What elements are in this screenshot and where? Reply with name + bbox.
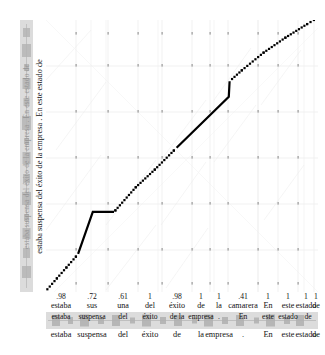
path-dot [313,20,315,21]
path-dot [173,149,175,151]
path-dot [271,46,273,48]
path-dot [123,199,125,201]
path-dot [68,264,70,266]
path-dot [287,35,289,37]
path-dot [166,157,168,159]
path-dot [158,164,160,166]
path-dot [231,78,233,80]
path-dot [306,23,308,25]
path-dot [292,31,294,33]
path-dot [273,44,275,46]
path-dot [254,58,256,60]
path-dot [284,37,286,39]
path-dot [128,194,130,196]
path-dot [301,26,303,28]
path-dot [265,50,267,52]
path-dot [154,169,156,171]
alignment-path-solid [78,81,230,254]
path-dot [257,56,259,58]
path-dot [70,261,72,263]
path-dot [151,171,153,173]
path-dot [163,159,165,161]
y-axis-label-text: estaba suspensa del éxito de la empresa … [35,59,44,253]
path-solid-segment-1 [177,81,230,148]
path-dot [233,76,235,78]
path-dot [246,65,248,67]
path-dot [252,60,254,62]
path-dot [72,258,74,260]
x-axis-bottom-word-row: estabasuspensadeléxitodelaempresa.Eneste… [46,330,318,342]
path-dot [260,54,262,56]
alignment-path [46,20,318,292]
path-dot [58,275,60,277]
bottom_words-11: de [282,330,325,340]
words-11: de [282,301,325,311]
path-dot [168,154,170,156]
path-dot [63,269,65,271]
alignment-path-dotted [46,20,315,290]
path-dot [114,209,116,211]
path-dot [65,266,67,268]
waveform_words-10: de [274,312,318,322]
path-dot [170,152,172,154]
path-dot [139,182,141,184]
path-dot [144,177,146,179]
path-dot [117,207,119,209]
path-dot [303,25,305,27]
path-dot [49,285,51,287]
path-dot [268,48,270,50]
path-dot [276,42,278,44]
path-dot [61,272,63,274]
path-dot [121,202,123,204]
path-dot [236,74,238,76]
x-axis-waveform-strip: estabasuspensadeléxitode laempresa.Enest… [46,312,318,329]
path-dot [135,186,137,188]
path-dot [279,40,281,42]
path-dot [161,161,163,163]
path-dot [309,21,311,23]
figure-root: estaba suspensa del éxito de la empresa … [0,0,325,355]
path-dot [238,71,240,73]
path-solid-segment-0 [78,212,114,254]
path-dot [46,288,48,290]
path-dot [126,196,128,198]
path-dot [290,33,292,35]
path-dot [56,277,58,279]
path-dot [243,67,245,69]
path-dot [295,30,297,32]
x-axis-word-row: estabasusunadeléxitodelacamareraEnestees… [46,301,318,312]
alignment-plot [46,20,318,292]
path-dot [263,52,265,54]
path-dot [241,69,243,71]
y-axis-label: estaba suspensa del éxito de la empresa … [32,20,46,292]
x-axis-panel: .98.72.611.9811.411111 estabasusunadeléx… [46,292,318,350]
path-dot [132,189,134,191]
y-waveform-label-text: estaba suspensa del éxito de la empresa … [22,63,31,248]
y-axis-panel: estaba suspensa del éxito de la empresa … [20,20,46,292]
path-dot [147,175,149,177]
path-dot [75,256,77,258]
path-dot [119,204,121,206]
path-dot [53,280,55,282]
path-dot [282,38,284,40]
path-dot [51,283,53,285]
path-dot [142,180,144,182]
path-dot [130,191,132,193]
path-dot [156,166,158,168]
path-dot [249,63,251,65]
path-dot [149,173,151,175]
path-dot [137,184,139,186]
path-dot [298,28,300,30]
